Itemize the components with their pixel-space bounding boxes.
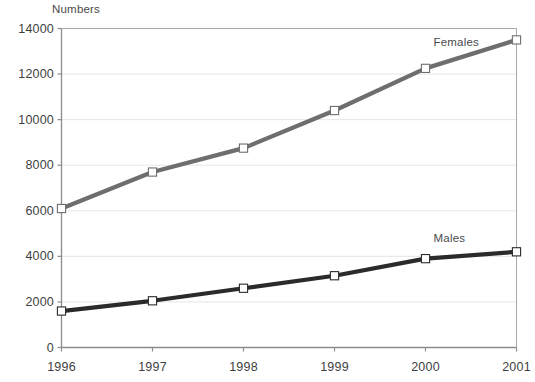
data-point-marker (148, 168, 156, 176)
x-axis-tick-label: 1996 (47, 360, 76, 374)
data-point-marker (512, 36, 520, 44)
line-chart: Numbers 02000400060008000100001200014000… (0, 0, 535, 382)
data-point-marker (239, 144, 247, 152)
y-axis-tick-label: 12000 (18, 67, 54, 81)
plot-area (0, 0, 535, 382)
data-point-marker (421, 255, 429, 263)
y-axis-tick-label: 2000 (25, 295, 54, 309)
y-axis-tick-label: 10000 (18, 113, 54, 127)
data-point-marker (57, 204, 65, 212)
y-axis-tick-label: 8000 (25, 158, 54, 172)
y-axis-tick-label: 6000 (25, 204, 54, 218)
x-axis-tick-label: 1999 (320, 360, 349, 374)
data-point-marker (512, 248, 520, 256)
data-point-marker (57, 307, 65, 315)
data-point-marker (330, 106, 338, 114)
series-annotation-females: Females (434, 36, 480, 48)
series-line-females (62, 40, 517, 209)
series-annotation-males: Males (434, 232, 466, 244)
x-axis-tick-label: 1997 (138, 360, 167, 374)
data-point-marker (239, 284, 247, 292)
y-axis-tick-label: 0 (47, 341, 54, 355)
y-axis-tick-label: 14000 (18, 22, 54, 36)
x-axis-tick-label: 2001 (502, 360, 531, 374)
data-point-marker (421, 64, 429, 72)
data-point-marker (330, 272, 338, 280)
x-axis-tick-label: 1998 (229, 360, 258, 374)
x-axis-tick-label: 2000 (411, 360, 440, 374)
y-axis-tick-label: 4000 (25, 249, 54, 263)
data-point-marker (148, 297, 156, 305)
